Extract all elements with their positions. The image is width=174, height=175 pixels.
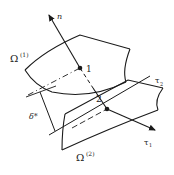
contact-surfaces-diagram: n Ω (1) 1 2 τ 2 τ 1 δ* Ω (2) [0,0,174,175]
label-omega-2-sup: (2) [86,150,95,157]
label-omega-2: Ω [76,152,84,163]
label-tau2-sub: 2 [160,81,163,87]
label-point-2: 2 [96,94,102,104]
normal-axis [49,15,80,68]
label-gap-delta: δ* [29,112,38,121]
label-point-1: 1 [86,64,92,74]
tau2-axis [49,76,150,135]
point-2-marker [105,107,110,112]
tangent-line-1 [28,68,80,95]
label-omega-1-sup: (1) [20,51,29,58]
label-tau1-sub: 1 [149,142,152,148]
label-n: n [57,12,62,21]
label-omega-1: Ω [10,53,18,64]
gap-line [40,92,55,131]
point-1-marker [78,66,83,71]
